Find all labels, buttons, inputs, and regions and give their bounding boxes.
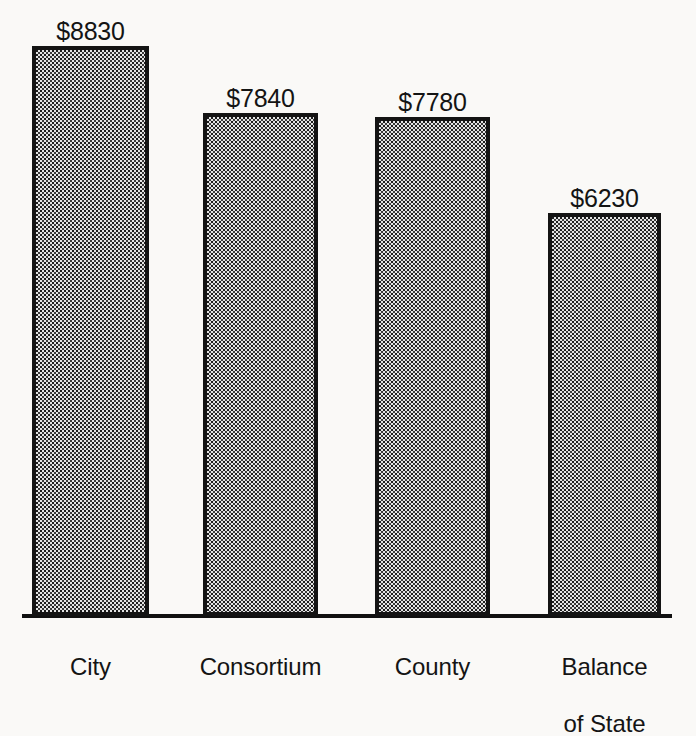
category-label-consortium: Consortium — [178, 625, 343, 682]
category-label-consortium-line1: Consortium — [200, 653, 322, 680]
bar-balance-of-state[interactable] — [548, 213, 661, 616]
category-label-city: City — [22, 625, 159, 682]
bar-value-label-balance-of-state: $6230 — [548, 186, 661, 211]
bar-city[interactable] — [32, 46, 149, 616]
bar-value-label-city: $8830 — [32, 19, 149, 44]
category-label-city-line1: City — [70, 653, 111, 680]
category-label-county: County — [363, 625, 502, 682]
bar-value-label-county: $7780 — [375, 90, 490, 115]
category-label-balance-of-state-line2: of State — [564, 710, 646, 736]
category-label-balance-of-state-line1: Balance — [561, 653, 647, 680]
bar-value-label-consortium: $7840 — [203, 86, 318, 111]
category-label-balance-of-state: Balance of State — [535, 625, 674, 736]
bar-consortium[interactable] — [203, 113, 318, 616]
bar-county[interactable] — [375, 117, 490, 616]
category-label-county-line1: County — [395, 653, 470, 680]
